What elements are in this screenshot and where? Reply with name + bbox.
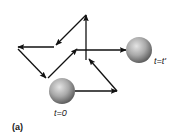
diagram-canvas <box>0 0 186 138</box>
end-time-label: t=t' <box>154 56 166 66</box>
end-sphere <box>126 37 152 63</box>
random-walk-diagram: t=0 t=t' (a) <box>0 0 186 138</box>
start-sphere <box>49 78 75 104</box>
walk-path <box>18 15 126 91</box>
start-time-label: t=0 <box>54 108 67 118</box>
step-arrow-2 <box>89 59 117 91</box>
step-arrow-7 <box>48 49 77 78</box>
panel-label: (a) <box>12 122 23 132</box>
step-arrow-6 <box>18 49 46 78</box>
step-arrow-4 <box>56 15 86 45</box>
